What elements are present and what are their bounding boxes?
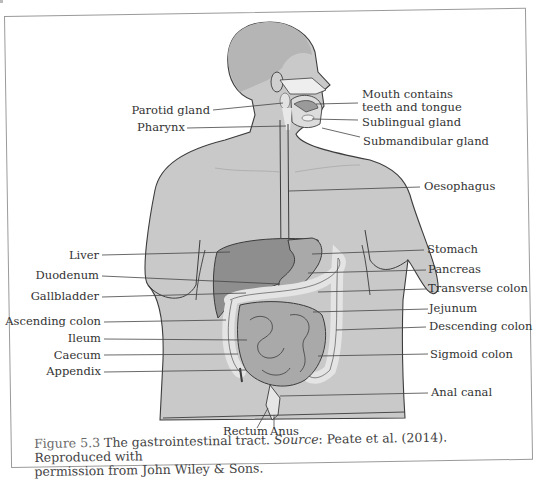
label-anal-canal: Anal canal [431,386,492,399]
label-liver: Liver [0,249,99,262]
label-jejunum: Jejunum [429,302,477,315]
label-oesophagus: Oesophagus [424,180,495,193]
label-appendix: Appendix [0,365,101,378]
small-intestine-shape [238,302,326,386]
label-ascending-colon: Ascending colon [0,315,101,328]
caption-line2: permission from John Wiley & Sons. [34,460,263,479]
label-duodenum: Duodenum [0,269,99,282]
parotid-gland-shape [280,93,290,109]
sublingual-gland-shape [302,115,314,121]
label-caecum: Caecum [0,349,101,362]
label-descending-colon: Descending colon [429,320,532,333]
label-sigmoid-colon: Sigmoid colon [430,348,513,361]
label-pancreas: Pancreas [428,263,481,276]
label-ileum: Ileum [0,332,101,345]
source-label: Source [274,432,319,448]
label-sublingual-gland: Sublingual gland [362,116,461,129]
figure-caption: Figure 5.3 The gastrointestinal tract. S… [34,430,505,479]
label-transverse-colon: Transverse colon [428,282,528,295]
label-gallbladder: Gallbladder [0,290,99,303]
label-mouth-line2: teeth and tongue [362,101,462,114]
figure-title: The gastrointestinal tract. [104,432,270,450]
label-parotid-gland: Parotid gland [110,104,210,117]
label-submandibular-gland: Submandibular gland [363,135,489,148]
label-stomach: Stomach [427,243,478,256]
label-pharynx: Pharynx [85,121,185,134]
